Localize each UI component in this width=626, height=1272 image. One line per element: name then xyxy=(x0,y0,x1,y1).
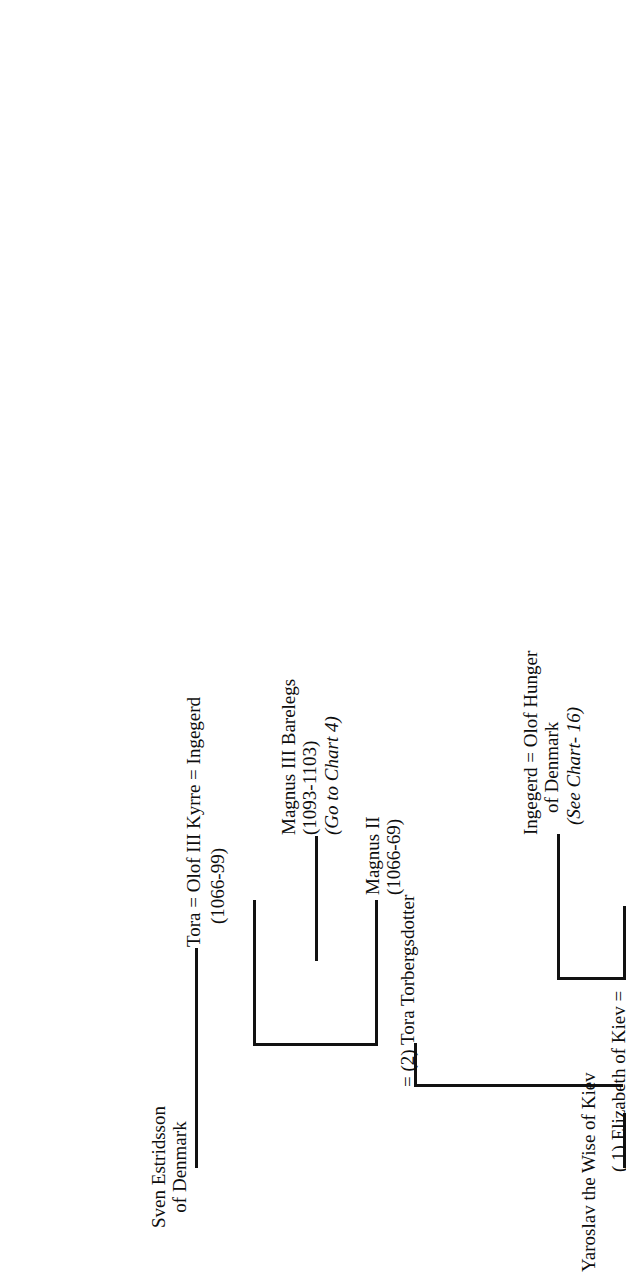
magnus3-line3: (Go to Chart 4) xyxy=(321,605,342,835)
ingegerd-olof-line1: Ingegerd = Olof Hunger xyxy=(520,585,541,835)
tora-line1: = (2) Tora Torbergsdotter xyxy=(397,827,418,1087)
connector-olof-magnus-sibling-bar xyxy=(253,1043,378,1046)
node-ingegerd-olof-hunger: Ingegerd = Olof Hunger of Denmark (See C… xyxy=(520,585,584,835)
node-tora-torbergsdotter: = (2) Tora Torbergsdotter xyxy=(397,827,418,1087)
node-magnus-iii-barelegs: Magnus III Barelegs (1093-1103) (Go to C… xyxy=(278,605,342,835)
node-sven-estridsson: Sven Estridsson of Denmark xyxy=(148,1062,191,1272)
connector-to-magnus-ii xyxy=(375,900,378,1046)
connector-to-olof-iii xyxy=(253,900,256,1046)
sven-line2: of Denmark xyxy=(169,1062,190,1272)
connector-olof-to-magnus-iii xyxy=(315,836,318,961)
elizabeth-line1: ( 1) Elizabeth of Kiev = xyxy=(608,942,626,1172)
magnus3-line2: (1093-1103) xyxy=(299,605,320,835)
ingegerd-olof-line2: of Denmark xyxy=(541,585,562,835)
node-elizabeth-of-kiev: ( 1) Elizabeth of Kiev = xyxy=(608,942,626,1172)
olof-marriage-line: Tora = Olof III Kyrre = Ingegerd xyxy=(183,617,204,947)
magnus2-line1: Magnus II xyxy=(362,755,383,895)
node-olof-iii-dates: (1066-99) xyxy=(207,804,228,924)
olof-dates: (1066-99) xyxy=(207,804,228,924)
ingegerd-olof-line3: (See Chart- 16) xyxy=(563,585,584,835)
node-olof-iii-kyrre: Tora = Olof III Kyrre = Ingegerd xyxy=(183,617,204,947)
sven-line1: Sven Estridsson xyxy=(148,1062,169,1272)
magnus3-line1: Magnus III Barelegs xyxy=(278,605,299,835)
node-yaroslav-the-wise: Yaroslav the Wise of Kiev xyxy=(578,1022,599,1272)
connector-sven-to-ingegerd xyxy=(195,948,198,1168)
yaroslav-line1: Yaroslav the Wise of Kiev xyxy=(578,1022,599,1272)
connector-to-ingegerd xyxy=(557,834,560,980)
genealogy-chart: Sven Estridsson of Denmark Tora = Olof I… xyxy=(0,0,626,1272)
